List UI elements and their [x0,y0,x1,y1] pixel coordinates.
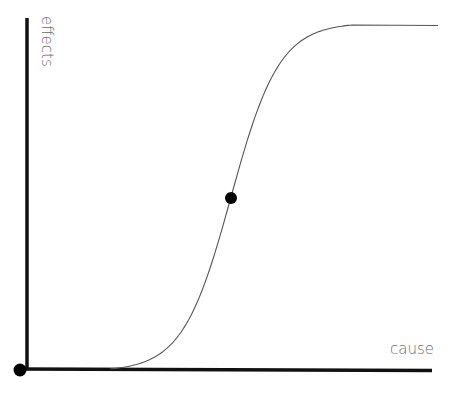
origin-marker [14,364,27,377]
x-axis-label: cause [390,340,434,358]
sigmoid-curve [110,25,438,369]
y-axis-label: effects [38,16,56,67]
sigmoid-diagram: effects cause [0,0,451,393]
x-axis [20,369,432,371]
inflection-point-marker [225,192,237,204]
